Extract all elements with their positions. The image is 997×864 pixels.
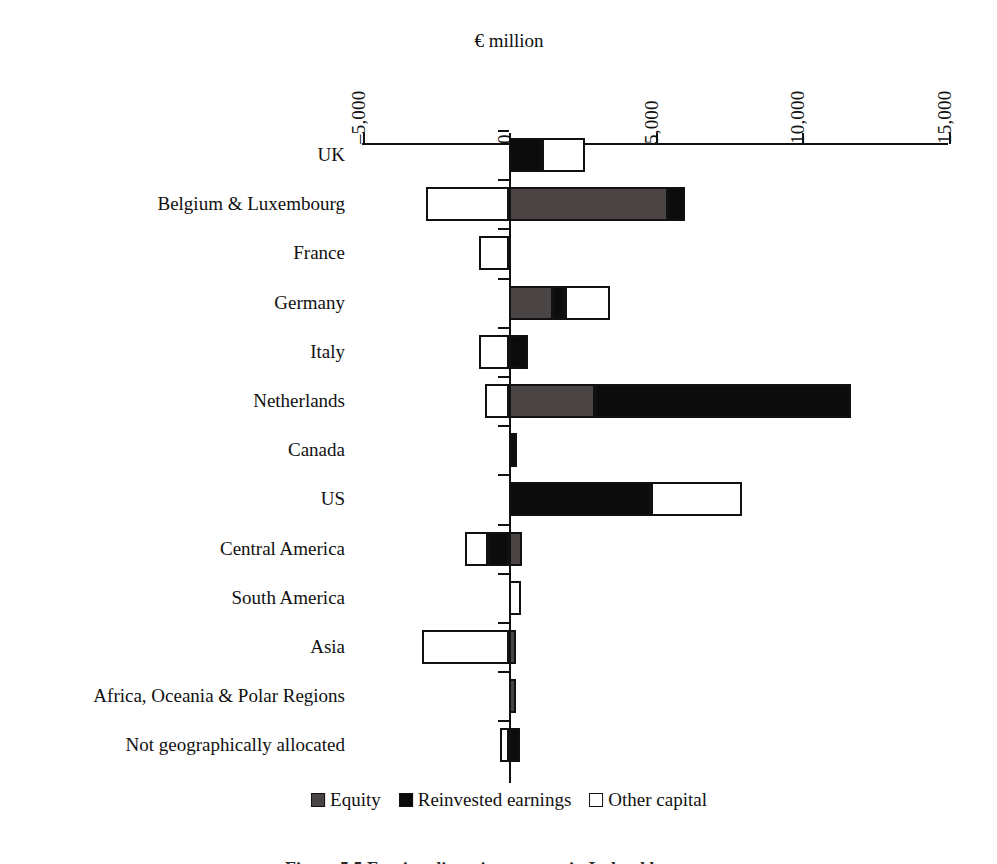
category-label: Belgium & Luxembourg <box>157 193 345 215</box>
category-label: Canada <box>288 439 345 461</box>
x-axis-tick-label: –5,000 <box>348 91 370 144</box>
category-label: South America <box>232 587 345 609</box>
legend-item: Other capital <box>589 789 707 811</box>
category-label: Germany <box>274 292 345 314</box>
category-label: Africa, Oceania & Polar Regions <box>93 685 345 707</box>
legend-item: Reinvested earnings <box>399 789 572 811</box>
bar-segment <box>509 384 595 418</box>
category-label: Italy <box>310 341 345 363</box>
bar-segment <box>426 187 509 221</box>
category-axis-tick <box>498 179 509 181</box>
category-axis-tick <box>498 573 509 575</box>
bar-segment <box>668 187 685 221</box>
category-label: France <box>293 242 345 264</box>
category-axis-tick <box>498 474 509 476</box>
bar-segment <box>509 187 668 221</box>
category-label: Not geographically allocated <box>126 734 345 756</box>
x-axis-tick-label: 10,000 <box>787 91 809 144</box>
category-axis-tick <box>498 622 509 624</box>
legend-swatch-icon <box>589 793 603 807</box>
category-label: UK <box>318 144 345 166</box>
bar-segment <box>651 482 742 516</box>
category-axis-tick <box>498 720 509 722</box>
bar-segment <box>509 532 522 566</box>
bar-segment <box>509 728 520 762</box>
bar-segment <box>553 286 565 320</box>
category-label: Netherlands <box>253 390 345 412</box>
bar-segment <box>509 138 542 172</box>
bar-segment <box>479 236 509 270</box>
legend-label: Reinvested earnings <box>418 789 572 811</box>
category-label: Central America <box>220 538 345 560</box>
bar-segment <box>509 630 516 664</box>
bar-segment <box>565 286 610 320</box>
bar-segment <box>509 433 517 467</box>
figure-caption: Figure 5.5 Foreign direct investment in … <box>285 860 733 864</box>
legend-swatch-icon <box>399 793 413 807</box>
bar-segment <box>500 728 509 762</box>
bar-segment <box>479 335 509 369</box>
bar-segment <box>595 384 851 418</box>
x-axis-tick-label: 15,000 <box>934 91 956 144</box>
category-axis-tick <box>498 425 509 427</box>
bar-segment <box>488 532 509 566</box>
category-axis-tick <box>498 327 509 329</box>
legend-label: Other capital <box>608 789 707 811</box>
legend-item: Equity <box>311 789 381 811</box>
bar-segment <box>422 630 509 664</box>
bar-segment <box>509 482 651 516</box>
category-axis-tick <box>498 671 509 673</box>
bar-segment <box>509 679 516 713</box>
legend-label: Equity <box>330 789 381 811</box>
bar-segment <box>509 286 553 320</box>
bar-segment <box>509 581 521 615</box>
category-axis-tick <box>498 524 509 526</box>
chart-legend: EquityReinvested earningsOther capital <box>311 789 707 811</box>
category-axis-tick <box>498 278 509 280</box>
category-axis-tick <box>498 376 509 378</box>
bar-segment <box>465 532 488 566</box>
bar-segment <box>509 335 528 369</box>
category-axis-tick <box>498 130 509 132</box>
bar-segment <box>542 138 585 172</box>
stacked-bar-chart: € million –5,00005,00010,00015,000 UKBel… <box>0 0 997 864</box>
x-axis-tick-label: 5,000 <box>641 100 663 144</box>
legend-swatch-icon <box>311 793 325 807</box>
bar-segment <box>485 384 509 418</box>
axis-title: € million <box>474 30 543 52</box>
category-axis-tick <box>498 228 509 230</box>
category-label: US <box>321 488 345 510</box>
category-label: Asia <box>310 636 345 658</box>
